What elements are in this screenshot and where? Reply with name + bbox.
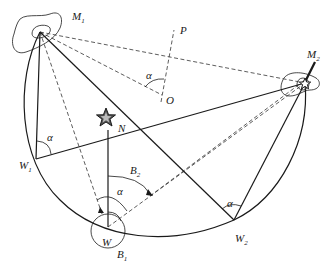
label-n: N: [117, 122, 126, 134]
label-w2: W2: [235, 232, 248, 247]
angle-arc-w-inner: [108, 212, 121, 221]
dashed-m1-m2: [40, 32, 305, 83]
b1-arrowhead: [98, 207, 104, 213]
label-alpha-w1: α: [47, 131, 53, 143]
dashed-o-p: [161, 30, 174, 102]
label-alpha-o: α: [146, 69, 152, 81]
label-m1: M1: [71, 10, 85, 25]
line-m1-w2: [40, 32, 234, 220]
label-alpha-w2: α: [227, 197, 233, 209]
m1-outer-contour: [13, 13, 62, 53]
label-o: O: [166, 94, 174, 106]
m2-marker-pole: [305, 62, 315, 82]
label-b1: B1: [117, 248, 127, 263]
angle-arc-w-alpha: [97, 197, 127, 211]
label-p: P: [179, 24, 187, 36]
label-b2: B2: [130, 164, 141, 179]
position-circle-diagram: M1 M2 P O N W1 W W2 B1 B2 α α α α: [0, 0, 333, 267]
line-m1-w1: [36, 32, 40, 159]
north-star-icon: [97, 108, 116, 126]
dashed-w-m2: [108, 83, 305, 227]
label-w1: W1: [19, 159, 32, 174]
label-alpha-w: α: [117, 185, 123, 197]
bearing-arc-b2: [108, 176, 150, 194]
position-circle-arc: [24, 32, 305, 237]
dashed-m1-o: [40, 32, 162, 95]
label-w: W: [102, 236, 112, 248]
label-m2: M2: [306, 48, 320, 63]
